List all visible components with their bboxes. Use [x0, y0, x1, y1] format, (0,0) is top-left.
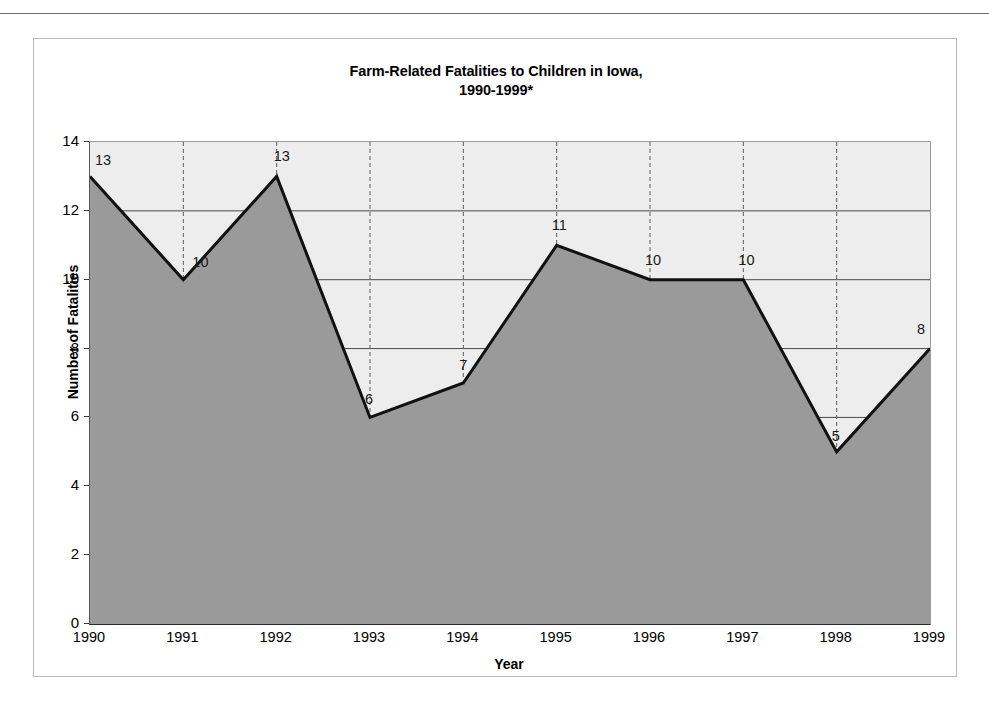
- y-axis-tick-label: 8: [37, 340, 79, 355]
- y-axis-tick-label: 14: [37, 133, 79, 148]
- x-axis-tick-label: 1993: [334, 630, 404, 645]
- chart-title-line2: 1990-1999*: [34, 81, 958, 100]
- y-axis-tick-label: 10: [37, 271, 79, 286]
- area-chart-svg: [90, 142, 930, 624]
- data-point-label: 5: [832, 429, 840, 444]
- plot-area: [89, 141, 931, 625]
- x-axis-tick-label: 1994: [427, 630, 497, 645]
- x-axis-tick-label: 1991: [147, 630, 217, 645]
- x-axis-tick-label: 1990: [54, 630, 124, 645]
- data-point-label: 10: [192, 255, 208, 270]
- data-point-label: 10: [738, 253, 754, 268]
- x-axis-tick-label: 1999: [894, 630, 964, 645]
- y-axis-tick-label: 4: [37, 477, 79, 492]
- data-point-label: 13: [274, 149, 290, 164]
- chart-title: Farm-Related Fatalities to Children in I…: [34, 62, 958, 100]
- y-axis-tick-label: 6: [37, 408, 79, 423]
- data-point-label: 8: [917, 322, 925, 337]
- y-axis-tick-label: 2: [37, 546, 79, 561]
- y-axis-tick-label: 0: [37, 615, 79, 630]
- data-point-label: 10: [645, 253, 661, 268]
- data-point-label: 13: [95, 153, 111, 168]
- data-point-label: 11: [552, 218, 567, 233]
- chart-title-line1: Farm-Related Fatalities to Children in I…: [350, 63, 643, 79]
- x-axis-title: Year: [89, 656, 929, 672]
- chart-page: Farm-Related Fatalities to Children in I…: [0, 0, 989, 709]
- x-axis-tick-label: 1995: [521, 630, 591, 645]
- x-axis-tick-label: 1996: [614, 630, 684, 645]
- x-axis-tick-label: 1998: [801, 630, 871, 645]
- x-axis-tick-label: 1997: [707, 630, 777, 645]
- page-top-rule: [0, 13, 989, 14]
- y-axis-tick-label: 12: [37, 202, 79, 217]
- x-axis-tick-label: 1992: [241, 630, 311, 645]
- data-point-label: 6: [365, 392, 373, 407]
- data-point-label: 7: [459, 358, 467, 373]
- chart-frame: Farm-Related Fatalities to Children in I…: [33, 38, 957, 677]
